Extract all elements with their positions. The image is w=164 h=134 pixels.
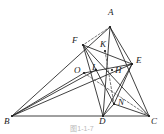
vertex-dot-e	[131, 63, 133, 65]
cevian-BE	[12, 64, 132, 116]
vertex-dot-c	[148, 115, 150, 117]
point-label-O: O	[74, 66, 81, 75]
point-label-E: E	[136, 56, 142, 65]
point-label-L: L	[92, 63, 97, 72]
segment-AE	[110, 27, 132, 64]
vertex-dot-n	[113, 103, 115, 105]
point-label-F: F	[72, 36, 78, 45]
point-label-K: K	[100, 40, 106, 49]
vertex-dot-k	[104, 50, 106, 52]
geometry-diagram-canvas	[0, 0, 164, 134]
segment-BL	[12, 70, 96, 116]
segment-BO	[12, 73, 84, 116]
vertex-dot-a	[109, 26, 111, 28]
vertex-dot-f	[82, 44, 84, 46]
vertex-dot-h	[111, 69, 113, 71]
vertex-dot-b	[11, 115, 13, 117]
point-label-N: N	[118, 98, 124, 107]
geometry-figure: A B C D E F H K L N O 图1-1-7	[0, 0, 164, 134]
vertex-dot-o	[83, 72, 85, 74]
point-label-A: A	[108, 8, 114, 17]
figure-caption: 图1-1-7	[0, 125, 164, 133]
point-label-H: H	[115, 66, 122, 75]
